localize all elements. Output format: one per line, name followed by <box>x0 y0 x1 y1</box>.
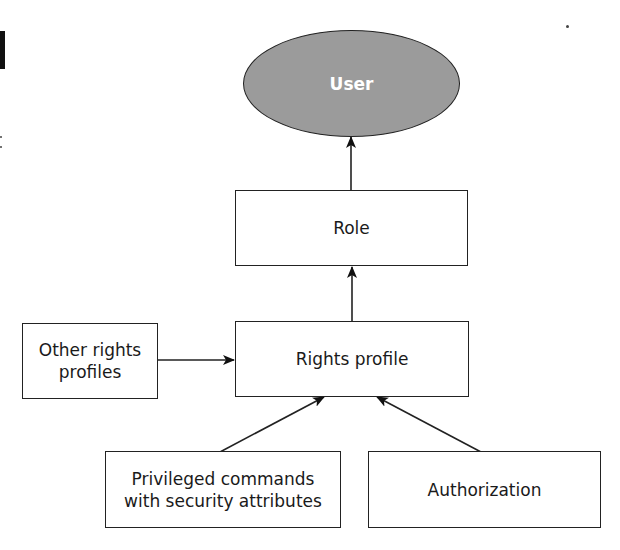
role-label: Role <box>333 217 370 239</box>
authorization-node: Authorization <box>368 451 601 528</box>
user-node: User <box>243 30 460 137</box>
other-rights-profiles-label-line1: Other rights <box>39 339 141 361</box>
other-rights-profiles-node: Other rights profiles <box>22 323 158 399</box>
arrow-authorization-to-rights-profile <box>377 397 481 452</box>
privileged-commands-node: Privileged commands with security attrib… <box>105 451 341 528</box>
rights-profile-node: Rights profile <box>235 321 469 397</box>
rights-profile-label: Rights profile <box>296 348 409 370</box>
privileged-commands-label-line2: with security attributes <box>124 490 322 512</box>
other-rights-profiles-label-line2: profiles <box>59 361 122 383</box>
role-node: Role <box>235 190 468 266</box>
authorization-label: Authorization <box>428 479 542 501</box>
privileged-commands-label-line1: Privileged commands <box>132 468 315 490</box>
user-label: User <box>330 74 374 94</box>
arrow-privileged-commands-to-rights-profile <box>220 397 324 452</box>
diagram-canvas: User Role Rights profile Other rights pr… <box>0 0 620 550</box>
